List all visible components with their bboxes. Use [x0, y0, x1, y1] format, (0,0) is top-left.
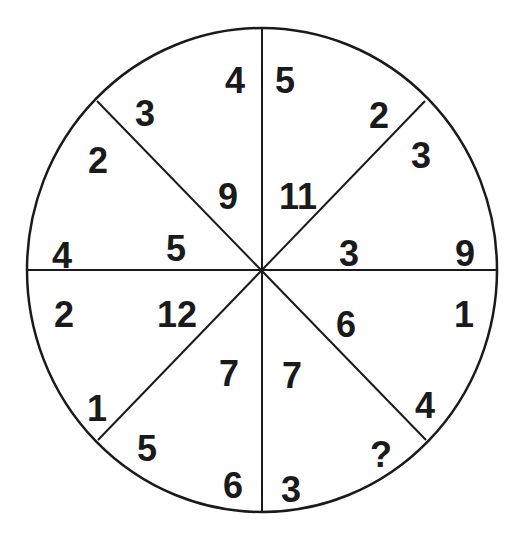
sector-number: 1 — [87, 388, 107, 429]
sector-number: 5 — [137, 428, 157, 469]
sector-number: 4 — [415, 385, 435, 426]
sector-number: 2 — [88, 140, 108, 181]
sector-number: 2 — [369, 95, 389, 136]
sector-number: 6 — [223, 465, 243, 506]
sector-number: 3 — [281, 469, 301, 510]
sector-number: 3 — [135, 93, 155, 134]
sector-number: 9 — [455, 233, 475, 274]
sector-number: 7 — [282, 355, 302, 396]
wheel-puzzle: 43294552311392121677145?63 — [0, 0, 514, 554]
sector-number: 2 — [54, 294, 74, 335]
sector-number: 12 — [157, 294, 197, 335]
sector-number: 11 — [279, 176, 317, 217]
sector-number: 7 — [219, 353, 239, 394]
sector-number: 6 — [336, 304, 356, 345]
sector-number: 5 — [275, 60, 295, 101]
sector-number: 3 — [411, 135, 431, 176]
sector-number: 9 — [218, 176, 238, 217]
sector-number: 4 — [52, 235, 72, 276]
unknown-number: ? — [370, 434, 392, 475]
sector-number: 5 — [166, 228, 186, 269]
sector-number: 1 — [454, 294, 474, 335]
sector-number: 4 — [225, 60, 245, 101]
sector-number: 3 — [339, 233, 359, 274]
